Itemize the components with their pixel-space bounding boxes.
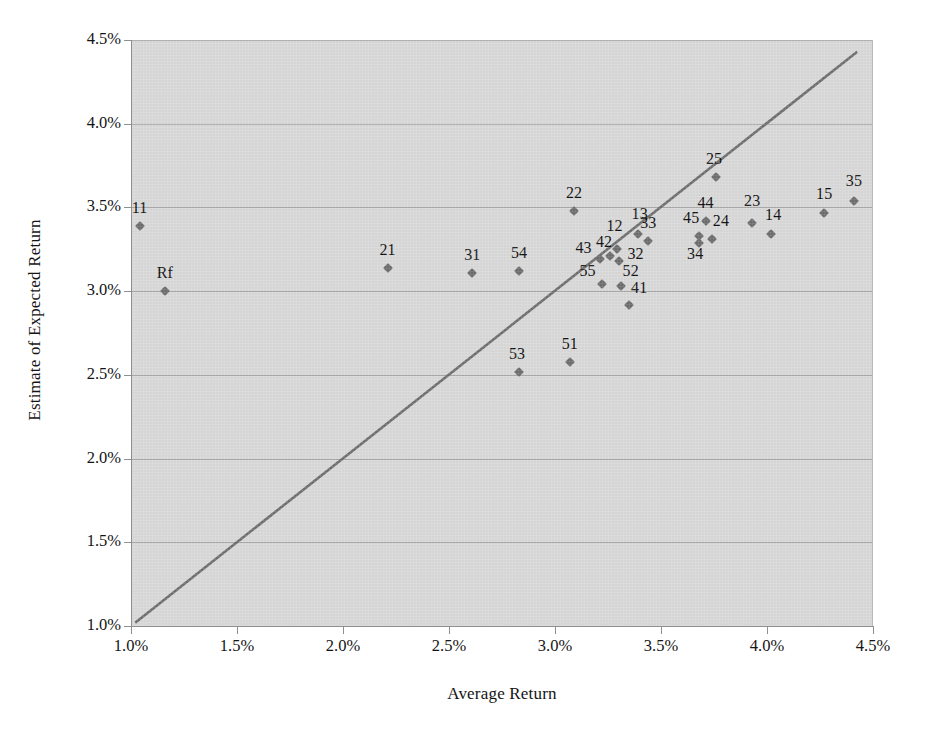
plot-area: 11Rf213154535122435542123252411333453444… — [131, 40, 873, 626]
data-point-label: 43 — [575, 239, 591, 257]
data-point-label: 53 — [509, 345, 525, 363]
x-tick-label: 3.0% — [515, 636, 595, 656]
y-tick-label: 1.5% — [49, 531, 121, 551]
data-point-label: 31 — [464, 246, 480, 264]
x-tick-label: 1.5% — [197, 636, 277, 656]
x-tick-label: 3.5% — [621, 636, 701, 656]
y-axis-line — [131, 40, 132, 627]
y-tick-label: 1.0% — [49, 615, 121, 635]
data-point-label: 42 — [596, 233, 612, 251]
y-tick-mark — [124, 375, 131, 376]
data-point-label: 52 — [623, 262, 639, 280]
x-tick-mark — [873, 627, 874, 634]
data-point-label: Rf — [157, 264, 173, 282]
data-point-label: 23 — [744, 192, 760, 210]
data-point-label: 41 — [631, 279, 647, 297]
x-axis-title: Average Return — [131, 684, 873, 704]
data-point-label: 51 — [562, 335, 578, 353]
y-axis-title: Estimate of Expected Return — [18, 40, 52, 600]
y-tick-label: 3.0% — [49, 280, 121, 300]
y-tick-mark — [124, 207, 131, 208]
x-axis-line — [131, 626, 874, 627]
data-point-label: 12 — [606, 217, 622, 235]
y-tick-mark — [124, 124, 131, 125]
data-point-label: 15 — [816, 185, 832, 203]
x-tick-label: 4.5% — [833, 636, 913, 656]
scatter-chart-figure: Estimate of Expected Return Average Retu… — [0, 0, 930, 738]
y-tick-mark — [124, 459, 131, 460]
y-tick-label: 2.0% — [49, 448, 121, 468]
y-tick-mark — [124, 542, 131, 543]
data-point-label: 34 — [687, 245, 703, 263]
x-tick-label: 4.0% — [727, 636, 807, 656]
data-point-label: 55 — [579, 262, 595, 280]
data-point-label: 44 — [697, 194, 713, 212]
x-tick-label: 2.5% — [409, 636, 489, 656]
x-tick-label: 1.0% — [91, 636, 171, 656]
data-point-label: 24 — [713, 212, 729, 230]
data-point-label: 35 — [846, 172, 862, 190]
data-point-label: 11 — [132, 199, 148, 217]
x-tick-mark — [661, 627, 662, 634]
data-point-label: 54 — [511, 244, 527, 262]
identity-reference-line — [131, 40, 872, 626]
x-tick-mark — [767, 627, 768, 634]
y-tick-label: 2.5% — [49, 364, 121, 384]
y-tick-mark — [124, 626, 131, 627]
data-point-label: 32 — [627, 245, 643, 263]
x-tick-mark — [237, 627, 238, 634]
y-tick-label: 3.5% — [49, 196, 121, 216]
data-point-label: 21 — [379, 241, 395, 259]
y-tick-label: 4.5% — [49, 29, 121, 49]
data-point-label: 25 — [706, 150, 722, 168]
data-point-label: 14 — [765, 206, 781, 224]
data-point-label: 33 — [640, 214, 656, 232]
x-tick-label: 2.0% — [303, 636, 383, 656]
y-tick-mark — [124, 40, 131, 41]
y-tick-mark — [124, 291, 131, 292]
x-tick-mark — [131, 627, 132, 634]
x-tick-mark — [449, 627, 450, 634]
x-tick-mark — [343, 627, 344, 634]
data-point-label: 22 — [566, 184, 582, 202]
y-tick-label: 4.0% — [49, 113, 121, 133]
x-tick-mark — [555, 627, 556, 634]
